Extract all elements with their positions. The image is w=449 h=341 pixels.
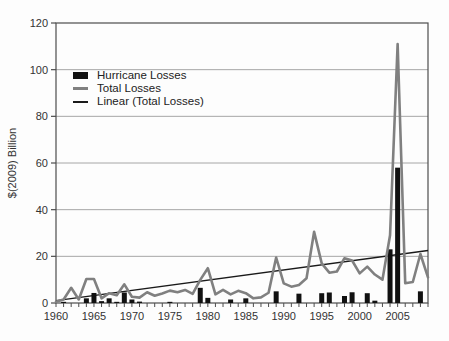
legend-item-hurricane-losses: Hurricane Losses bbox=[73, 69, 204, 82]
losses-chart: 0204060801001201960196519701975198019851… bbox=[0, 0, 449, 341]
y-tick-label: 0 bbox=[42, 297, 48, 309]
x-tick-label: 2005 bbox=[385, 310, 409, 322]
hurricane-bar-2004 bbox=[388, 249, 393, 303]
y-tick-label: 120 bbox=[30, 17, 48, 29]
hurricane-bar-1970 bbox=[129, 300, 134, 304]
hurricane-bar-1996 bbox=[327, 293, 332, 304]
x-tick-label: 1965 bbox=[82, 310, 106, 322]
y-tick-label: 40 bbox=[36, 204, 48, 216]
x-tick-label: 1980 bbox=[196, 310, 220, 322]
x-tick-label: 1995 bbox=[309, 310, 333, 322]
hurricane-bar-1998 bbox=[342, 296, 347, 303]
legend: Hurricane Losses Total Losses Linear (To… bbox=[73, 69, 204, 108]
legend-item-linear-total-losses: Linear (Total Losses) bbox=[73, 95, 204, 108]
hurricane-bar-2005 bbox=[395, 168, 400, 303]
hurricane-bar-1995 bbox=[319, 293, 324, 303]
hurricane-bar-1985 bbox=[243, 298, 248, 303]
hurricane-bar-1989 bbox=[274, 291, 279, 303]
x-tick-label: 1990 bbox=[272, 310, 296, 322]
hurricane-bar-1961 bbox=[61, 302, 66, 303]
hurricane-bar-1975 bbox=[167, 302, 172, 303]
hurricane-bar-1992 bbox=[296, 294, 301, 303]
linear-trend-swatch-icon bbox=[73, 101, 88, 103]
x-tick-label: 1985 bbox=[234, 310, 258, 322]
hurricane-bar-1965 bbox=[91, 293, 96, 303]
legend-label-total-losses: Total Losses bbox=[97, 82, 161, 95]
x-tick-label: 1970 bbox=[120, 310, 144, 322]
hurricane-bar-1979 bbox=[198, 288, 203, 303]
hurricane-bar-1968 bbox=[114, 302, 119, 303]
y-tick-label: 80 bbox=[36, 110, 48, 122]
hurricane-bar-2002 bbox=[372, 301, 377, 303]
total-losses-line-swatch-icon bbox=[73, 87, 88, 90]
y-axis-title: $(2009) Billion bbox=[6, 113, 20, 213]
hurricane-bar-2008 bbox=[418, 291, 423, 303]
x-tick-label: 1960 bbox=[44, 310, 68, 322]
hurricane-bar-1999 bbox=[350, 292, 355, 303]
y-tick-label: 20 bbox=[36, 250, 48, 262]
x-tick-label: 1975 bbox=[158, 310, 182, 322]
legend-label-hurricane-losses: Hurricane Losses bbox=[97, 69, 186, 82]
y-tick-label: 100 bbox=[30, 64, 48, 76]
hurricane-bar-1980 bbox=[205, 298, 210, 303]
legend-item-total-losses: Total Losses bbox=[73, 82, 204, 95]
x-tick-label: 2000 bbox=[347, 310, 371, 322]
y-tick-label: 60 bbox=[36, 157, 48, 169]
chart-canvas: 0204060801001201960196519701975198019851… bbox=[0, 0, 449, 341]
legend-label-linear-total-losses: Linear (Total Losses) bbox=[97, 95, 204, 108]
hurricane-bar-1983 bbox=[228, 300, 233, 304]
hurricane-bar-1969 bbox=[122, 293, 127, 304]
hurricane-bar-1966 bbox=[99, 301, 104, 303]
hurricane-bar-2001 bbox=[365, 293, 370, 303]
hurricane-losses-bar-swatch-icon bbox=[73, 72, 88, 79]
hurricane-bar-1967 bbox=[107, 298, 112, 303]
hurricane-bar-1971 bbox=[137, 302, 142, 303]
hurricane-bar-1964 bbox=[84, 298, 89, 303]
